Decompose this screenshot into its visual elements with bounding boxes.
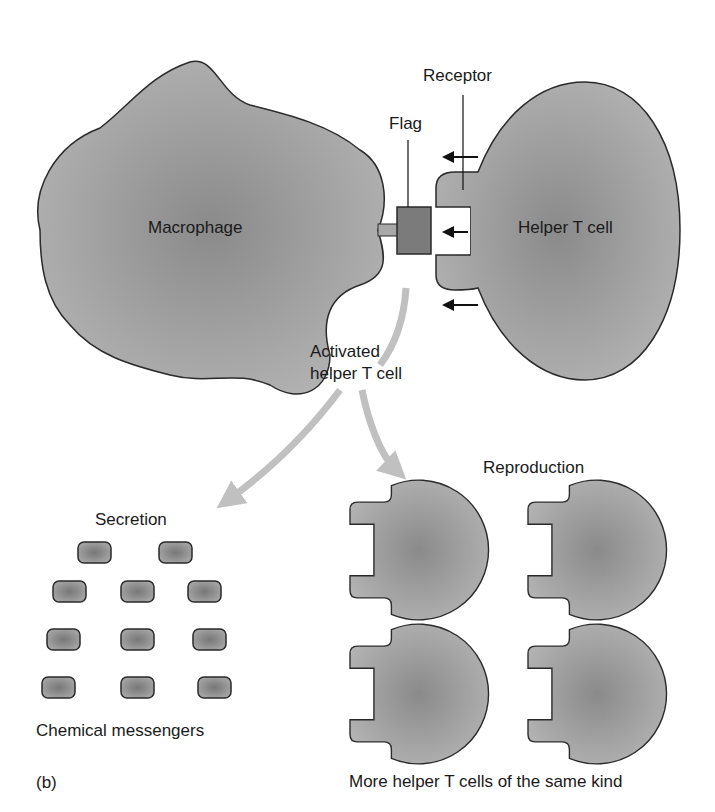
diagram-canvas	[0, 0, 715, 812]
chemical-messengers-caption: Chemical messengers	[36, 721, 204, 741]
chemical-messengers	[42, 542, 231, 698]
reproduction-title: Reproduction	[483, 458, 584, 478]
secretion-title: Secretion	[95, 510, 167, 530]
reproduced-t-cells	[350, 480, 667, 764]
panel-label: (b)	[36, 773, 57, 793]
flag-label: Flag	[389, 114, 422, 134]
reproduction-flow-arrow	[362, 390, 396, 470]
helper-t-cell-label: Helper T cell	[518, 218, 613, 238]
activated-label-line2: helper T cell	[310, 364, 402, 384]
activation-flow-arrow	[380, 288, 406, 365]
receptor-label: Receptor	[423, 66, 492, 86]
activated-label-line1: Activated	[310, 342, 380, 362]
flag-stalk	[378, 224, 398, 236]
flag-shape	[397, 207, 431, 254]
secretion-flow-arrow	[228, 390, 340, 500]
more-t-cells-caption: More helper T cells of the same kind	[349, 772, 622, 792]
macrophage-label: Macrophage	[148, 218, 243, 238]
